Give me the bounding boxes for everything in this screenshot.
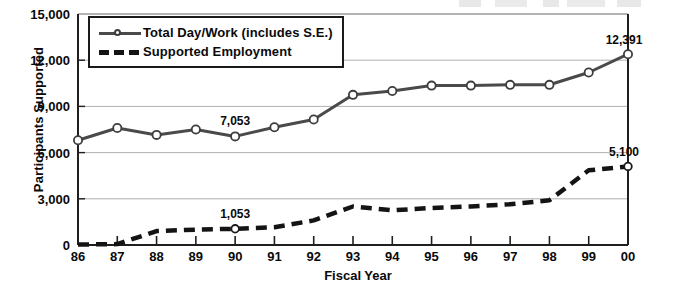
- data-point-label: 7,053: [220, 114, 250, 128]
- x-tick-label: 97: [490, 249, 530, 264]
- legend-label-supported-employment: Supported Employment: [143, 44, 292, 59]
- legend-swatch-dashed-line-icon: [97, 45, 143, 59]
- data-point-label: 12,391: [606, 33, 643, 47]
- x-tick-label: 93: [333, 249, 373, 264]
- x-tick-label: 87: [97, 249, 137, 264]
- legend-swatch-solid-line-icon: [97, 26, 143, 40]
- x-tick-label: 92: [294, 249, 334, 264]
- x-tick-label: 95: [412, 249, 452, 264]
- legend-item-total-day-work: Total Day/Work (includes S.E.): [97, 23, 333, 42]
- data-point-label: 1,053: [220, 207, 250, 221]
- chart-figure: Participants Supported 03,0006,0009,0001…: [0, 0, 674, 291]
- data-point-label: 5,100: [609, 145, 639, 159]
- legend-item-supported-employment: Supported Employment: [97, 42, 333, 61]
- x-tick-label: 96: [451, 249, 491, 264]
- x-tick-label: 99: [569, 249, 609, 264]
- x-tick-label: 91: [254, 249, 294, 264]
- x-tick-label: 98: [529, 249, 569, 264]
- x-axis-title: Fiscal Year: [0, 268, 674, 283]
- chart-legend: Total Day/Work (includes S.E.) Supported…: [88, 16, 344, 68]
- x-tick-label: 89: [176, 249, 216, 264]
- x-tick-label: 88: [137, 249, 177, 264]
- x-tick-label: 94: [372, 249, 412, 264]
- x-tick-label: 86: [58, 249, 98, 264]
- x-axis-title-text: Fiscal Year: [324, 268, 392, 283]
- legend-label-total-day-work: Total Day/Work (includes S.E.): [143, 25, 333, 40]
- x-tick-label: 90: [215, 249, 255, 264]
- x-tick-label: 00: [608, 249, 648, 264]
